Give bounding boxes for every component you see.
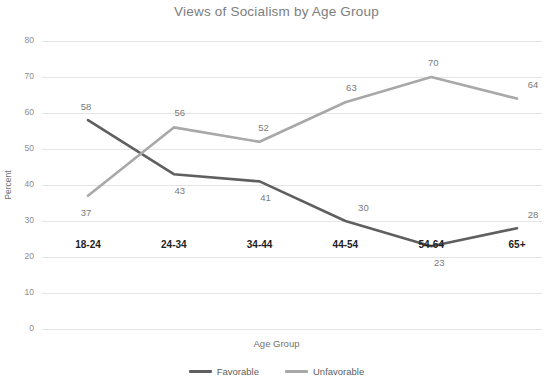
data-point-label: 63	[346, 82, 357, 93]
gridline	[42, 329, 542, 330]
data-point-label: 70	[428, 57, 439, 68]
y-axis-tick-label: 50	[0, 143, 34, 153]
data-point-label: 58	[81, 101, 92, 112]
legend-swatch	[189, 370, 212, 373]
legend-swatch	[285, 370, 308, 373]
y-axis-tick-label: 30	[0, 215, 34, 225]
x-axis-category-label: 24-34	[161, 239, 187, 250]
y-axis-tick-label: 60	[0, 107, 34, 117]
y-axis-tick-label: 70	[0, 71, 34, 81]
series-lines	[42, 41, 542, 329]
data-point-label: 30	[358, 202, 369, 213]
chart-title: Views of Socialism by Age Group	[0, 4, 553, 19]
series-line	[88, 120, 517, 246]
data-point-label: 64	[528, 78, 539, 89]
x-axis-category-label: 18-24	[75, 239, 101, 250]
legend-item[interactable]: Favorable	[189, 366, 259, 377]
data-point-label: 23	[434, 257, 445, 268]
y-axis-tick-label: 20	[0, 251, 34, 261]
x-axis-title: Age Group	[0, 338, 553, 349]
y-axis-tick-label: 0	[0, 323, 34, 333]
x-axis-category-label: 65+	[509, 239, 526, 250]
data-point-label: 52	[258, 121, 269, 132]
data-point-label: 41	[260, 192, 271, 203]
data-point-label: 37	[81, 206, 92, 217]
data-point-label: 28	[528, 209, 539, 220]
data-point-label: 56	[175, 107, 186, 118]
y-axis-tick-label: 80	[0, 35, 34, 45]
x-axis-category-label: 34-44	[247, 239, 273, 250]
y-axis-tick-label: 40	[0, 179, 34, 189]
x-axis-category-label: 44-54	[333, 239, 359, 250]
legend-item[interactable]: Unfavorable	[285, 366, 364, 377]
plot-area: 584341302328375652637064	[42, 41, 542, 329]
legend-label: Unfavorable	[313, 366, 364, 377]
series-line	[88, 77, 517, 196]
legend-label: Favorable	[217, 366, 259, 377]
x-axis-category-label: 54-64	[418, 239, 444, 250]
y-axis-tick-label: 10	[0, 287, 34, 297]
data-point-label: 43	[175, 185, 186, 196]
chart-legend: FavorableUnfavorable	[0, 366, 553, 377]
chart-container: Views of Socialism by Age Group Percent …	[0, 0, 553, 388]
